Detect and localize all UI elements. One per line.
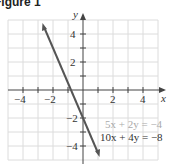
coordinate-graph: x y −4 −2 2 4 4 2 −2 −4 5x + 2y = −4 10x… bbox=[0, 0, 171, 164]
y-tick-label: 2 bbox=[70, 56, 76, 68]
y-axis-label: y bbox=[72, 8, 78, 20]
equation-2: 10x + 4y = −8 bbox=[100, 131, 163, 143]
equation-1: 5x + 2y = −4 bbox=[105, 118, 163, 130]
x-tick-label: 4 bbox=[140, 93, 146, 105]
y-tick-label: −2 bbox=[66, 112, 78, 124]
x-tick-label: −2 bbox=[44, 93, 56, 105]
y-axis-arrow-icon bbox=[80, 13, 86, 20]
x-tick-label: 2 bbox=[110, 93, 116, 105]
y-tick-label: 4 bbox=[70, 28, 76, 40]
x-tick-label: −4 bbox=[14, 93, 26, 105]
y-tick-label: −4 bbox=[66, 140, 78, 152]
x-axis-label: x bbox=[160, 92, 166, 104]
